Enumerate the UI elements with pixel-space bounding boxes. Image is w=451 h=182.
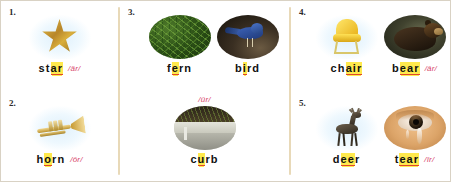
phonetic-label: /âr/	[425, 64, 437, 73]
word-entry[interactable]: bird	[217, 3, 279, 74]
bear-picture	[384, 15, 446, 59]
word-text: curb	[190, 153, 218, 165]
word-line: fern	[167, 62, 192, 74]
deer-shape	[330, 108, 364, 148]
deer-picture	[316, 106, 378, 150]
pre-phonetic-label: /ûr/	[198, 94, 210, 105]
word-entry[interactable]: deer	[316, 94, 378, 165]
worksheet-panel: 1. star /är/ 2.	[0, 0, 451, 182]
word-entry[interactable]: chair	[316, 3, 378, 74]
trumpet-picture	[29, 106, 91, 150]
star-picture	[29, 15, 91, 59]
trumpet-shape	[33, 114, 86, 143]
word-line: curb	[190, 153, 218, 165]
chair-shape	[330, 19, 364, 55]
fern-picture	[149, 15, 211, 59]
bear-shape	[384, 15, 446, 59]
eye-shape	[384, 106, 446, 150]
word-entry[interactable]: tear /îr/	[384, 94, 446, 165]
word-entry[interactable]: /ûr/ curb	[174, 94, 236, 165]
word-text: fern	[167, 62, 192, 74]
word-line: horn /ôr/	[36, 153, 82, 165]
word-entry[interactable]: fern	[149, 3, 211, 74]
word-entry[interactable]: horn /ôr/	[29, 94, 91, 165]
curb-picture	[174, 106, 236, 150]
word-text: star	[39, 62, 64, 74]
phonetic-label: /ôr/	[70, 155, 82, 164]
word-text: deer	[333, 153, 361, 165]
worksheet-item-1: 1. star /är/	[1, 1, 118, 92]
word-line: deer	[333, 153, 361, 165]
phonetic-label: /îr/	[424, 155, 434, 164]
chair-picture	[316, 15, 378, 59]
worksheet-item-3-continued: /ûr/ curb	[120, 92, 289, 182]
tear-picture	[384, 106, 446, 150]
worksheet-item-3: 3. fern	[120, 1, 289, 92]
worksheet-item-2: 2. horn /ôr/	[1, 92, 118, 182]
worksheet-item-4: 4. chair	[291, 1, 451, 92]
bird-picture	[217, 15, 279, 59]
word-line: bear /âr/	[392, 62, 437, 74]
bird-shape	[217, 15, 279, 59]
word-text: bird	[235, 62, 260, 74]
word-line: bird	[235, 62, 260, 74]
curb-shape	[174, 106, 236, 150]
word-line: tear /îr/	[395, 153, 435, 165]
word-text: horn	[36, 153, 65, 165]
word-line: star /är/	[39, 62, 81, 74]
word-entry[interactable]: bear /âr/	[384, 3, 446, 74]
word-text: chair	[331, 62, 363, 74]
worksheet-item-5: 5. deer	[291, 92, 451, 182]
phonetic-label: /är/	[68, 64, 80, 73]
word-text: bear	[392, 62, 420, 74]
word-entry[interactable]: star /är/	[29, 3, 91, 74]
word-text: tear	[395, 153, 420, 165]
star-shape	[42, 19, 78, 55]
word-line: chair	[331, 62, 363, 74]
fern-shape	[149, 15, 211, 59]
